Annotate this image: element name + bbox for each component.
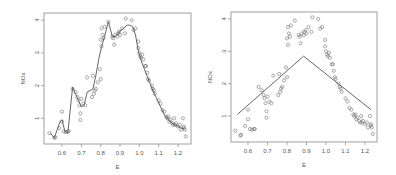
- data-point: [279, 90, 282, 93]
- x-tick-label: 1.0: [322, 148, 331, 154]
- data-point: [284, 66, 287, 69]
- x-axis-title: E: [302, 162, 306, 168]
- y-tick-label: 3: [221, 49, 227, 53]
- data-point: [248, 127, 251, 130]
- data-point: [257, 85, 260, 88]
- data-point: [278, 72, 281, 75]
- data-point: [240, 133, 243, 136]
- data-point: [272, 74, 275, 77]
- data-point: [307, 25, 310, 28]
- data-point: [323, 45, 326, 48]
- data-point: [265, 110, 268, 113]
- data-point: [287, 32, 290, 35]
- data-point: [293, 19, 296, 22]
- y-tick-label: 1: [221, 114, 227, 118]
- data-point: [346, 100, 349, 103]
- data-point: [282, 79, 285, 82]
- data-point: [286, 43, 289, 46]
- data-point: [344, 97, 347, 100]
- scatter-points: [234, 16, 375, 137]
- data-point: [288, 35, 291, 38]
- data-point: [368, 115, 371, 118]
- data-point: [289, 24, 292, 27]
- data-point: [246, 108, 249, 111]
- data-point: [299, 42, 302, 45]
- data-point: [262, 93, 265, 96]
- data-point: [277, 93, 280, 96]
- data-point: [332, 69, 335, 72]
- data-point: [266, 95, 269, 98]
- data-point: [317, 17, 320, 20]
- y-axis-title: NOx: [207, 71, 213, 83]
- y-tick-label: 4: [221, 17, 227, 21]
- x-tick-label: 0.7: [263, 148, 272, 154]
- x-tick-label: 0.9: [302, 148, 311, 154]
- x-tick-label: 1.2: [361, 148, 370, 154]
- piecewise-fit-panel: 0.60.70.80.91.01.11.21234ENOx: [0, 0, 198, 175]
- data-point: [323, 38, 326, 41]
- data-point: [340, 90, 343, 93]
- data-point: [371, 132, 374, 135]
- data-point: [311, 16, 314, 19]
- fit-line: [237, 56, 371, 114]
- data-point: [243, 124, 246, 127]
- data-point: [260, 89, 263, 92]
- piecewise-fit-plot: 0.60.70.80.91.01.11.21234ENOx: [0, 0, 396, 175]
- data-point: [285, 76, 288, 79]
- x-tick-label: 1.1: [341, 148, 350, 154]
- data-point: [265, 116, 268, 119]
- data-point: [310, 30, 313, 33]
- data-point: [234, 129, 237, 132]
- x-tick-label: 0.6: [244, 148, 253, 154]
- y-tick-label: 2: [221, 81, 227, 85]
- x-tick-label: 0.8: [283, 148, 292, 154]
- data-point: [264, 102, 267, 105]
- data-point: [360, 115, 363, 118]
- plot-frame: [231, 12, 377, 142]
- data-point: [246, 118, 249, 121]
